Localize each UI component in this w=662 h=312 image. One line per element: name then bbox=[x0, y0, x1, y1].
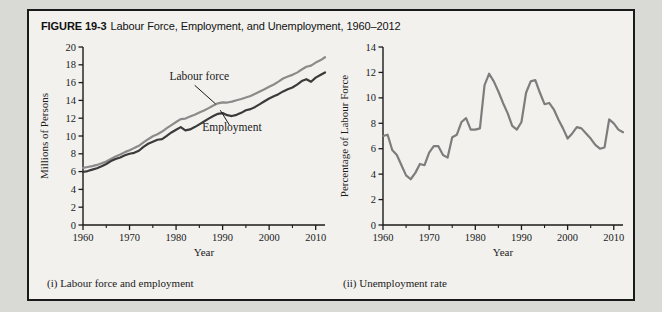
panel-right-caption: (ii) Unemployment rate bbox=[343, 277, 447, 289]
y-axis-title: Millions of Persons bbox=[38, 93, 50, 179]
x-tick-label: 2010 bbox=[305, 232, 326, 243]
y-tick-label: 2 bbox=[371, 194, 376, 205]
y-tick-label: 12 bbox=[366, 67, 377, 78]
x-tick-label: 1970 bbox=[419, 232, 440, 243]
y-tick-label: 2 bbox=[71, 202, 76, 213]
y-tick-label: 0 bbox=[371, 220, 376, 231]
figure-title-text: Labour Force, Employment, and Unemployme… bbox=[111, 20, 401, 32]
y-tick-label: 10 bbox=[66, 131, 77, 142]
y-tick-label: 6 bbox=[371, 143, 376, 154]
series-line bbox=[383, 74, 623, 180]
y-axis-title: Percentage of Labour Force bbox=[338, 75, 350, 198]
figure-number: FIGURE 19-3 bbox=[41, 20, 107, 32]
y-tick-label: 16 bbox=[66, 77, 77, 88]
y-tick-label: 4 bbox=[71, 184, 77, 195]
y-tick-label: 4 bbox=[371, 169, 377, 180]
x-tick-label: 1970 bbox=[119, 232, 140, 243]
y-tick-label: 20 bbox=[66, 42, 77, 53]
panel-labour-force-employment: 0246810121416182019601970198019902000201… bbox=[33, 37, 335, 295]
x-tick-label: 1980 bbox=[166, 232, 187, 243]
y-tick-label: 8 bbox=[71, 148, 76, 159]
x-tick-label: 2000 bbox=[259, 232, 280, 243]
annotation-leader-line bbox=[195, 85, 216, 104]
y-tick-label: 8 bbox=[371, 118, 376, 129]
x-tick-label: 1990 bbox=[511, 232, 532, 243]
x-axis-title: Year bbox=[493, 246, 514, 258]
y-tick-label: 14 bbox=[66, 95, 77, 106]
y-tick-label: 6 bbox=[71, 166, 76, 177]
panel-left-caption: (i) Labour force and employment bbox=[47, 277, 194, 289]
x-tick-label: 1990 bbox=[212, 232, 233, 243]
x-tick-label: 2000 bbox=[557, 232, 578, 243]
x-tick-label: 1980 bbox=[465, 232, 486, 243]
y-tick-label: 12 bbox=[66, 113, 77, 124]
figure-container: FIGURE 19-3Labour Force, Employment, and… bbox=[27, 9, 635, 301]
y-tick-label: 0 bbox=[71, 220, 76, 231]
figure-title: FIGURE 19-3Labour Force, Employment, and… bbox=[41, 20, 401, 32]
x-tick-label: 2010 bbox=[603, 232, 624, 243]
chart-labour-force-employment: 0246810121416182019601970198019902000201… bbox=[33, 37, 335, 269]
chart-unemployment-rate: 02468101214196019701980199020002010YearP… bbox=[335, 37, 633, 269]
y-tick-label: 14 bbox=[366, 42, 377, 53]
y-tick-label: 18 bbox=[66, 59, 77, 70]
panel-unemployment-rate: 02468101214196019701980199020002010YearP… bbox=[335, 37, 633, 295]
x-axis-title: Year bbox=[194, 246, 215, 258]
y-tick-label: 10 bbox=[366, 92, 377, 103]
x-tick-label: 1960 bbox=[373, 232, 394, 243]
series-annotation-label: Labour force bbox=[169, 70, 229, 82]
x-tick-label: 1960 bbox=[73, 232, 94, 243]
series-annotation-label: Employment bbox=[202, 121, 262, 134]
